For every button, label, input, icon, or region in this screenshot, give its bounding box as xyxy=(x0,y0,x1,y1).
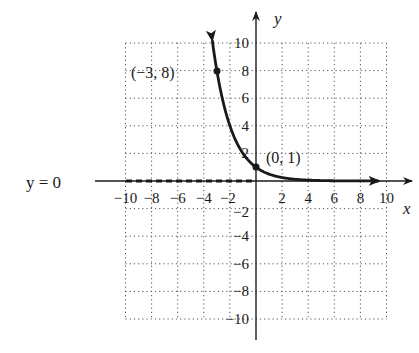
x-tick-label: −8 xyxy=(144,190,160,206)
point-0-1 xyxy=(253,164,260,171)
x-tick-label: −6 xyxy=(170,190,186,206)
y-tick-label: −8 xyxy=(233,283,249,299)
exponential-graph: y x y = 0 (−3, 8) (0, 1) −10−8−6−4−22468… xyxy=(0,0,419,353)
x-tick-label: −10 xyxy=(114,190,137,206)
point-label-neg3-8: (−3, 8) xyxy=(131,64,175,82)
y-tick-label: 8 xyxy=(242,63,250,79)
x-tick-label: −4 xyxy=(196,190,212,206)
y-tick-label: 6 xyxy=(242,90,250,106)
x-tick-label: 6 xyxy=(331,190,339,206)
x-tick-labels: −10−8−6−4−2246810 xyxy=(114,190,394,206)
y-tick-label: 2 xyxy=(242,145,250,161)
point-neg3-8 xyxy=(214,68,221,75)
y-tick-label: −6 xyxy=(233,256,249,272)
y-tick-label: −10 xyxy=(226,311,249,327)
y-axis-label: y xyxy=(272,9,282,28)
x-tick-label: 10 xyxy=(379,190,394,206)
asymptote-label: y = 0 xyxy=(26,173,61,192)
y-tick-label: −2 xyxy=(233,204,249,220)
x-axis-label: x xyxy=(402,199,411,218)
x-tick-label: 2 xyxy=(278,190,286,206)
x-tick-label: 8 xyxy=(357,190,365,206)
y-tick-label: −4 xyxy=(233,228,249,244)
x-tick-label: 4 xyxy=(304,190,312,206)
y-tick-label: 10 xyxy=(234,35,249,51)
point-label-0-1: (0, 1) xyxy=(266,149,301,167)
y-tick-label: 4 xyxy=(242,118,250,134)
